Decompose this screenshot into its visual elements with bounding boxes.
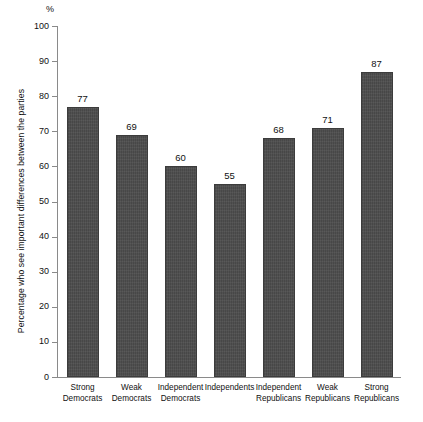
y-axis-tick-label: 50 xyxy=(12,197,49,206)
y-axis-tick xyxy=(52,272,57,273)
x-axis-category-line: Republicans xyxy=(347,394,407,405)
bar-group: 68 xyxy=(263,26,295,377)
x-axis-category-line: Democrats xyxy=(151,394,211,405)
bar[interactable] xyxy=(165,166,197,377)
bar[interactable] xyxy=(214,184,246,377)
bar-value-label: 69 xyxy=(108,122,156,132)
bar-group: 55 xyxy=(214,26,246,377)
bar-value-label: 60 xyxy=(157,153,205,163)
bar[interactable] xyxy=(361,72,393,377)
y-axis-tick xyxy=(52,26,57,27)
y-axis-tick xyxy=(52,237,57,238)
y-axis-tick xyxy=(52,307,57,308)
y-axis-tick-label: 0 xyxy=(12,373,49,382)
plot-area: 77696055687187 xyxy=(58,26,401,377)
bar[interactable] xyxy=(263,138,295,377)
bar-value-label: 71 xyxy=(304,115,352,125)
y-axis-tick xyxy=(52,202,57,203)
y-axis-tick-label: 100 xyxy=(12,22,49,31)
bar-value-label: 87 xyxy=(353,59,401,69)
y-axis-tick-label: 10 xyxy=(12,337,49,346)
y-axis-tick xyxy=(52,166,57,167)
y-axis-tick xyxy=(52,377,57,378)
bar[interactable] xyxy=(116,135,148,377)
y-axis-tick-label: 20 xyxy=(12,302,49,311)
y-axis-tick-label: 60 xyxy=(12,162,49,171)
bar-value-label: 77 xyxy=(59,94,107,104)
y-axis-tick-label: 30 xyxy=(12,267,49,276)
bar[interactable] xyxy=(312,128,344,377)
y-axis-tick-label: 40 xyxy=(12,232,49,241)
bar-group: 71 xyxy=(312,26,344,377)
y-axis-tick-label: 90 xyxy=(12,57,49,66)
y-axis-tick xyxy=(52,342,57,343)
bar-group: 60 xyxy=(165,26,197,377)
bar-chart: Percentage who see important differences… xyxy=(0,0,423,422)
percent-unit-label: % xyxy=(36,4,54,14)
bar-group: 87 xyxy=(361,26,393,377)
x-axis-category-line: Strong xyxy=(347,383,407,394)
y-axis-tick xyxy=(52,61,57,62)
y-axis-tick-label: 70 xyxy=(12,127,49,136)
y-axis-tick xyxy=(52,131,57,132)
bar-value-label: 55 xyxy=(206,171,254,181)
bar[interactable] xyxy=(67,107,99,377)
y-axis-tick xyxy=(52,96,57,97)
bar-group: 77 xyxy=(67,26,99,377)
y-axis-tick-label: 80 xyxy=(12,92,49,101)
bar-group: 69 xyxy=(116,26,148,377)
x-axis-line xyxy=(57,377,401,378)
bar-value-label: 68 xyxy=(255,125,303,135)
x-axis-category-label: StrongRepublicans xyxy=(347,383,407,404)
